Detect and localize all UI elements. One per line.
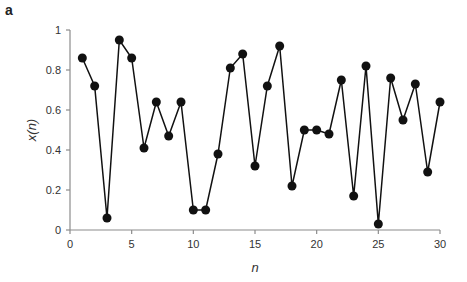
data-point-marker [337, 76, 346, 85]
data-point-marker [423, 168, 432, 177]
data-point-marker [214, 150, 223, 159]
data-point-marker [152, 98, 161, 107]
y-tick-label: 0.4 [46, 144, 61, 156]
data-point-marker [189, 206, 198, 215]
data-point-marker [127, 54, 136, 63]
y-tick-label: 0.2 [46, 184, 61, 196]
data-point-marker [140, 144, 149, 153]
data-point-marker [288, 182, 297, 191]
x-tick-label: 25 [372, 238, 384, 250]
x-axis-label: n [251, 260, 258, 275]
y-tick-label: 0 [55, 224, 61, 236]
data-point-marker [226, 64, 235, 73]
x-tick-label: 15 [249, 238, 261, 250]
data-point-marker [275, 42, 284, 51]
x-tick-label: 0 [67, 238, 73, 250]
data-point-marker [115, 36, 124, 45]
data-point-marker [177, 98, 186, 107]
data-point-marker [78, 54, 87, 63]
data-point-marker [325, 130, 334, 139]
data-point-marker [103, 214, 112, 223]
data-point-marker [164, 132, 173, 141]
data-point-marker [90, 82, 99, 91]
data-point-marker [201, 206, 210, 215]
series-line [82, 40, 440, 224]
data-point-marker [411, 80, 420, 89]
data-point-marker [238, 50, 247, 59]
line-chart: 00.20.40.60.81051015202530nx(n) [0, 0, 467, 282]
y-tick-label: 0.6 [46, 104, 61, 116]
y-tick-label: 1 [55, 24, 61, 36]
data-point-marker [300, 126, 309, 135]
data-point-marker [399, 116, 408, 125]
y-axis-label: x(n) [24, 119, 39, 142]
data-point-marker [362, 62, 371, 71]
y-tick-label: 0.8 [46, 64, 61, 76]
data-point-marker [349, 192, 358, 201]
x-tick-label: 5 [129, 238, 135, 250]
x-tick-label: 20 [311, 238, 323, 250]
data-point-marker [386, 74, 395, 83]
data-point-marker [312, 126, 321, 135]
data-point-marker [263, 82, 272, 91]
data-point-marker [374, 220, 383, 229]
x-tick-label: 10 [187, 238, 199, 250]
x-tick-label: 30 [434, 238, 446, 250]
data-point-marker [251, 162, 260, 171]
data-point-marker [436, 98, 445, 107]
